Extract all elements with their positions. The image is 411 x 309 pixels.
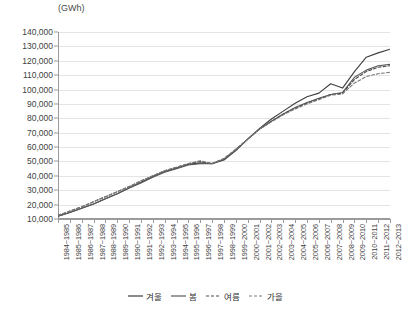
y-axis-tick-label: 50,000 — [27, 156, 53, 166]
x-axis-tick-marks — [58, 219, 390, 223]
legend-item-여름[interactable]: 여름 — [206, 290, 240, 302]
x-axis-tick-mark — [331, 219, 332, 223]
x-axis-tick-mark — [283, 219, 284, 223]
x-axis-tick-label: 1988~1989 — [109, 224, 118, 260]
x-axis-tick-label: 1985~1986 — [74, 224, 83, 260]
legend-label: 가을 — [267, 290, 283, 302]
x-axis-tick-label: 1987~1988 — [98, 224, 107, 260]
y-axis-tick-label: 40,000 — [27, 171, 53, 181]
legend-label: 여름 — [224, 290, 240, 302]
x-axis-tick-label: 1999~2000 — [240, 224, 249, 260]
x-axis-tick-mark — [188, 219, 189, 223]
y-axis-tick-label: 130,000 — [22, 41, 53, 51]
y-axis-tick-label: 10,000 — [27, 214, 53, 224]
x-axis-tick-label: 1995~1996 — [192, 224, 201, 260]
legend-label: 봄 — [189, 290, 197, 302]
x-axis-tick-mark — [390, 219, 391, 223]
x-axis-tick-mark — [141, 219, 142, 223]
x-axis-tick-label: 1996~1997 — [204, 224, 213, 260]
x-axis-tick-label: 1990~1991 — [133, 224, 142, 260]
x-axis-tick-mark — [82, 219, 83, 223]
chart-legend: 겨울봄여름가을 — [0, 288, 411, 304]
legend-swatch-icon — [171, 292, 186, 300]
x-axis-tick-mark — [212, 219, 213, 223]
y-axis-unit-label: (GWh) — [58, 3, 85, 13]
x-axis-tick-mark — [378, 219, 379, 223]
x-axis-tick-mark — [94, 219, 95, 223]
x-axis-tick-label: 2009~2010 — [358, 224, 367, 260]
y-axis-tick-label: 90,000 — [27, 99, 53, 109]
x-axis-tick-mark — [117, 219, 118, 223]
x-axis-tick-mark — [129, 219, 130, 223]
x-axis-tick-label: 1989~1990 — [121, 224, 130, 260]
y-axis-tick-label: 110,000 — [23, 70, 53, 80]
x-axis-tick-mark — [295, 219, 296, 223]
legend-label: 겨울 — [146, 290, 162, 302]
legend-item-겨울[interactable]: 겨울 — [128, 290, 162, 302]
x-axis-tick-mark — [319, 219, 320, 223]
y-axis-tick-label: 20,000 — [27, 200, 53, 210]
y-axis-tick-label: 120,000 — [22, 56, 53, 66]
legend-swatch-icon — [206, 292, 221, 300]
x-axis-tick-label: 1997~1998 — [216, 224, 225, 260]
x-axis-tick-label: 1986~1987 — [86, 224, 95, 260]
x-axis-tick-mark — [366, 219, 367, 223]
y-axis-tick-label: 140,000 — [22, 27, 53, 37]
seasonal-electricity-line-chart: (GWh) 140,000130,000120,000110,000100,00… — [0, 0, 411, 309]
x-axis-tick-label: 2011~2012 — [382, 224, 391, 260]
y-axis-tick-label: 30,000 — [27, 185, 53, 195]
x-axis-tick-mark — [165, 219, 166, 223]
x-axis-tick-label: 2010~2011 — [370, 224, 379, 260]
x-axis-tick-mark — [153, 219, 154, 223]
x-axis-tick-label: 1993~1994 — [169, 224, 178, 260]
legend-swatch-icon — [128, 292, 143, 300]
x-axis-tick-label: 1994~1995 — [181, 224, 190, 260]
x-axis-tick-label: 1998~1999 — [228, 224, 237, 260]
x-axis-tick-label: 2012~2013 — [394, 224, 403, 260]
x-axis-tick-label: 2007~2008 — [335, 224, 344, 260]
x-axis-tick-mark — [354, 219, 355, 223]
y-axis-tick-label: 80,000 — [27, 113, 53, 123]
x-axis-tick-mark — [271, 219, 272, 223]
x-axis-tick-label: 2005~2006 — [311, 224, 320, 260]
series-lines — [58, 32, 390, 219]
x-axis-tick-mark — [177, 219, 178, 223]
x-axis-tick-mark — [307, 219, 308, 223]
x-axis-tick-label: 1992~1993 — [157, 224, 166, 260]
x-axis-tick-labels: 1984~19851985~19861986~19871987~19881988… — [58, 224, 390, 282]
x-axis-tick-label: 2002~2003 — [275, 224, 284, 260]
y-axis-tick-label: 100,000 — [22, 85, 53, 95]
x-axis-tick-label: 2003~2004 — [287, 224, 296, 260]
legend-swatch-icon — [249, 292, 264, 300]
x-axis-tick-mark — [58, 219, 59, 223]
y-axis-tick-label: 60,000 — [27, 142, 53, 152]
x-axis-tick-label: 2006~2007 — [323, 224, 332, 260]
x-axis-tick-mark — [200, 219, 201, 223]
x-axis-tick-mark — [70, 219, 71, 223]
series-line-가을 — [58, 72, 390, 215]
x-axis-tick-label: 1991~1992 — [145, 224, 154, 260]
y-axis-tick-label: 70,000 — [27, 128, 53, 138]
x-axis-tick-mark — [248, 219, 249, 223]
x-axis-tick-mark — [343, 219, 344, 223]
x-axis-tick-label: 2008~2009 — [347, 224, 356, 260]
series-line-겨울 — [58, 49, 390, 216]
x-axis-tick-label: 1984~1985 — [62, 224, 71, 260]
legend-item-가을[interactable]: 가을 — [249, 290, 283, 302]
x-axis-tick-mark — [236, 219, 237, 223]
x-axis-tick-mark — [224, 219, 225, 223]
y-axis-tick-labels: 140,000130,000120,000110,000100,00090,00… — [0, 32, 56, 219]
legend-item-봄[interactable]: 봄 — [171, 290, 197, 302]
x-axis-tick-mark — [105, 219, 106, 223]
x-axis-tick-label: 2001~2002 — [264, 224, 273, 260]
x-axis-tick-mark — [260, 219, 261, 223]
x-axis-tick-label: 2000~2001 — [252, 224, 261, 260]
series-line-여름 — [58, 66, 390, 216]
x-axis-tick-label: 2004~2005 — [299, 224, 308, 260]
